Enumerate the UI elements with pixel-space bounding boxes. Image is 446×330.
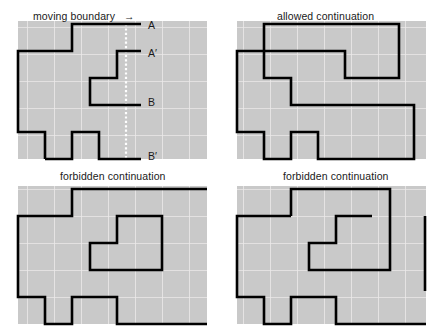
panel-caption-forbidden-continuation-left: forbidden continuation [60,170,166,182]
arrow-right-icon: → [118,10,135,22]
panel-grid-background [18,21,207,159]
panel-grid-background [237,186,426,324]
panel-grid-background [18,186,207,324]
diagram-canvas [0,0,446,330]
panel-bottom-left [18,186,207,324]
figure-lattice-boundary-continuations: moving boundary → allowed continuation f… [0,0,446,330]
panel-bottom-right [237,186,426,324]
node-label-b: B [148,96,155,108]
panel-grid-background [237,21,426,159]
panel-caption-allowed-continuation: allowed continuation [277,10,374,22]
panel-caption-forbidden-continuation-right: forbidden continuation [283,170,389,182]
panel-caption-text: moving boundary [33,10,115,22]
panel-caption-moving-boundary: moving boundary → [33,10,135,22]
node-label-a-prime: A′ [148,47,157,59]
node-label-a: A [148,19,155,31]
panel-top-right [237,21,426,159]
node-label-b-prime: B′ [148,150,157,162]
panel-top-left [18,21,207,159]
